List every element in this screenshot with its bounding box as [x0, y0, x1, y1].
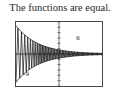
graph-figure: The functions are equal. 6 -6 -9 9 [0, 0, 120, 92]
figure-caption: The functions are equal. [0, 1, 120, 14]
axis-label-y-max: 6 [71, 35, 85, 42]
axis-label-x-min: -9 [16, 71, 29, 78]
plot-area: 6 -6 -9 9 [15, 21, 103, 87]
